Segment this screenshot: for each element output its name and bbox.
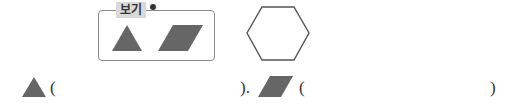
example-label: 보기	[116, 2, 146, 18]
answer-parallelogram-icon	[257, 75, 294, 98]
parallelogram-icon	[157, 24, 204, 52]
answer-triangle-icon	[21, 76, 47, 98]
answer-open-paren-2: (	[299, 78, 305, 98]
answer-open-paren-1: (	[50, 78, 56, 98]
hexagon-icon	[245, 5, 311, 62]
answer-close-paren-1: ).	[240, 78, 250, 98]
triangle-icon	[111, 24, 143, 52]
answer-blank-2[interactable]	[310, 78, 485, 98]
answer-close-paren-2: )	[490, 78, 496, 98]
label-dot	[150, 4, 156, 10]
answer-blank-1[interactable]	[60, 78, 235, 98]
